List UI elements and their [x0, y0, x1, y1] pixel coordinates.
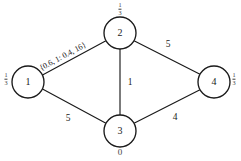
node-label-3: 3 [118, 126, 123, 136]
graph-svg [0, 0, 241, 161]
edge-weight-2-4: 5 [166, 40, 171, 50]
node-label-1: 1 [26, 77, 31, 87]
graph-diagram-canvas: 1 2 3 4 5 1 5 4 {0.6, 1: 0.4, 16} 0 1 3 … [0, 0, 241, 161]
edge-weight-3-4: 4 [173, 113, 178, 123]
node-fraction-4: 1 3 [232, 72, 235, 87]
fraction-denominator: 3 [118, 10, 121, 17]
edge-1-3 [43, 89, 106, 123]
fraction-denominator: 3 [232, 80, 235, 87]
fraction-numerator: 1 [118, 2, 121, 9]
node-label-4: 4 [212, 77, 217, 87]
edge-weight-2-3: 1 [128, 78, 133, 88]
node-label-2: 2 [118, 28, 123, 38]
edge-weight-1-3: 5 [66, 114, 71, 124]
fraction-numerator: 1 [232, 72, 235, 79]
node-fraction-2: 1 3 [118, 2, 121, 17]
node-fraction-1: 1 3 [4, 72, 7, 87]
fraction-numerator: 1 [4, 72, 7, 79]
edge-3-4 [135, 90, 200, 123]
fraction-denominator: 3 [4, 80, 7, 87]
node-annotation-3: 0 [118, 148, 123, 157]
